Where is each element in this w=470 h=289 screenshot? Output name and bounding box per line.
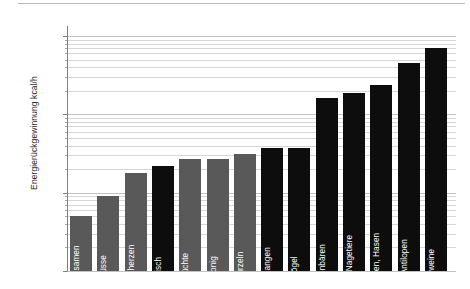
y-tick-minor	[65, 118, 68, 119]
y-tick-minor	[65, 48, 68, 49]
y-tick-minor	[65, 205, 68, 206]
y-tick-minor	[65, 234, 68, 235]
y-tick-major	[63, 36, 67, 37]
y-tick-minor	[65, 155, 68, 156]
y-tick-minor	[65, 210, 68, 211]
bar: Wurzeln	[234, 154, 256, 271]
y-tick-major	[63, 271, 67, 272]
y-tick-minor	[65, 122, 68, 123]
plot-area: 1001.00010.000100.000 GrassamenNüssePalm…	[67, 26, 456, 272]
bar-label: Palmherzen	[127, 245, 136, 271]
bar: Grassamen	[70, 216, 92, 271]
bar-label: Pakas, Nagetiere	[345, 235, 354, 271]
y-axis-title: Energierückgewinnung kcal/h	[29, 33, 39, 233]
bar-chart: Energierückgewinnung kcal/h 1001.00010.0…	[0, 0, 470, 289]
y-tick-minor	[65, 138, 68, 139]
bar: Schlangen	[261, 148, 283, 271]
y-tick-minor	[65, 53, 68, 54]
y-tick-minor	[65, 44, 68, 45]
bar: Honig	[207, 159, 229, 271]
y-tick-minor	[65, 67, 68, 68]
y-tick-minor	[65, 169, 68, 170]
y-tick-minor	[65, 196, 68, 197]
bar-label: Schweine	[427, 249, 436, 271]
bar: Nüsse	[97, 196, 119, 271]
y-tick-minor	[65, 77, 68, 78]
bar: Fisch	[152, 166, 174, 271]
y-tick-major	[63, 114, 67, 115]
y-tick-minor	[65, 200, 68, 201]
bar: Schweine	[425, 48, 447, 271]
bar: Nasenbären	[316, 98, 338, 271]
y-tick-minor	[65, 247, 68, 248]
y-tick-minor	[65, 126, 68, 127]
bar-label: Nüsse	[99, 255, 108, 271]
bar-label: Honig	[209, 256, 218, 271]
y-tick-minor	[65, 146, 68, 147]
y-tick-minor	[65, 224, 68, 225]
bar-label: Fisch	[154, 257, 163, 271]
bar: Wild, Antilopen	[398, 63, 420, 271]
bar-series: GrassamenNüssePalmherzenFischFrüchteHoni…	[68, 26, 456, 272]
bar-label: Vögel	[290, 256, 299, 271]
bar-label: Wurzeln	[236, 252, 245, 271]
bar: Pakas, Nagetiere	[343, 93, 365, 272]
y-tick-minor	[65, 40, 68, 41]
top-divider	[18, 3, 465, 4]
y-tick-major	[63, 193, 67, 194]
bar-label: Schlangen	[263, 247, 272, 271]
bar: Früchte	[179, 159, 201, 271]
bar: Vögel	[288, 148, 310, 271]
bar-label: Früchte	[181, 253, 190, 271]
y-tick-minor	[65, 91, 68, 92]
bar-label: Nasenbären	[318, 244, 327, 271]
bar-label: Grassamen	[72, 245, 81, 271]
y-tick-minor	[65, 60, 68, 61]
bar: Palmherzen	[125, 173, 147, 271]
bar: Kaninchen, Hasen	[370, 85, 392, 271]
bar-label: Kaninchen, Hasen	[372, 233, 381, 271]
y-tick-minor	[65, 216, 68, 217]
y-tick-minor	[65, 132, 68, 133]
bar-label: Wild, Antilopen	[400, 239, 409, 271]
